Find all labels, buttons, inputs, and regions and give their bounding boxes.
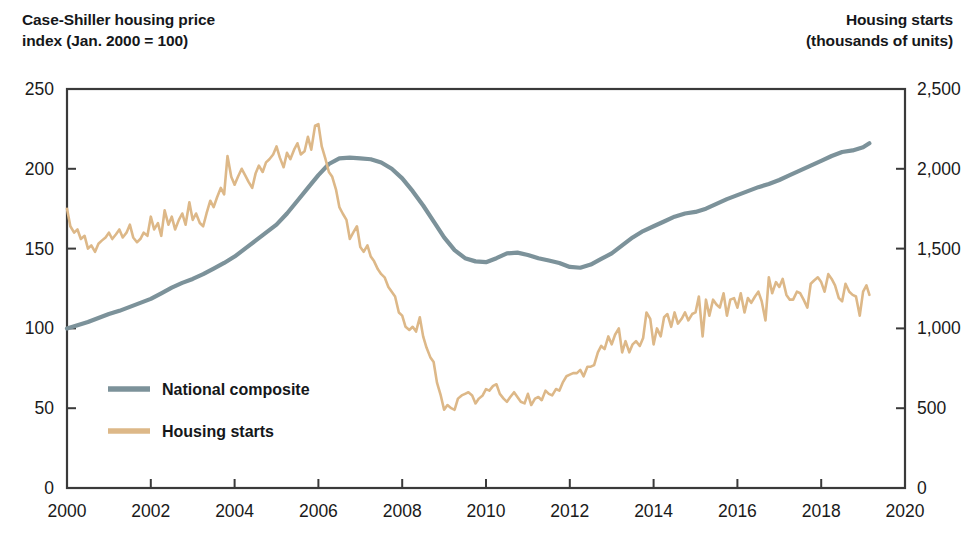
x-tick-label: 2004 xyxy=(215,501,254,521)
x-tick-label: 2016 xyxy=(718,501,757,521)
right-tick-label: 0 xyxy=(917,478,927,498)
housing-chart-figure: Case-Shiller housing price index (Jan. 2… xyxy=(0,0,969,545)
chart-plot-area: 050100150200250 05001,0001,5002,0002,500… xyxy=(0,0,969,545)
left-tick-label: 150 xyxy=(25,239,54,259)
x-tick-label: 2006 xyxy=(299,501,338,521)
left-tick-label: 0 xyxy=(44,478,54,498)
legend-label: National composite xyxy=(162,381,310,398)
left-axis-ticks: 050100150200250 xyxy=(25,79,76,498)
left-tick-label: 250 xyxy=(25,79,54,99)
x-tick-label: 2020 xyxy=(886,501,925,521)
series-line-housing-starts xyxy=(67,124,869,410)
right-tick-label: 1,000 xyxy=(917,318,961,338)
x-tick-label: 2012 xyxy=(550,501,589,521)
left-tick-label: 200 xyxy=(25,159,54,179)
right-tick-label: 1,500 xyxy=(917,239,961,259)
right-tick-label: 500 xyxy=(917,398,946,418)
data-series-group xyxy=(67,124,869,410)
x-axis-ticks: 2000200220042006200820102012201420162018… xyxy=(48,479,925,521)
right-tick-label: 2,000 xyxy=(917,159,961,179)
x-tick-label: 2010 xyxy=(467,501,506,521)
left-tick-label: 100 xyxy=(25,318,54,338)
chart-legend: National compositeHousing starts xyxy=(108,381,310,440)
x-tick-label: 2018 xyxy=(802,501,841,521)
left-tick-label: 50 xyxy=(35,398,55,418)
x-tick-label: 2002 xyxy=(131,501,170,521)
right-tick-label: 2,500 xyxy=(917,79,961,99)
x-tick-label: 2008 xyxy=(383,501,422,521)
x-tick-label: 2014 xyxy=(634,501,673,521)
x-tick-label: 2000 xyxy=(48,501,87,521)
legend-label: Housing starts xyxy=(162,423,274,440)
